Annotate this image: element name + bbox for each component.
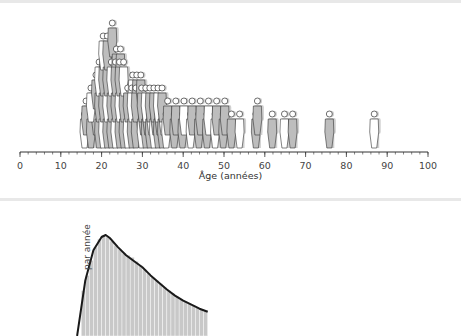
person-figure (370, 111, 381, 148)
histogram-bar (110, 241, 114, 336)
histogram-bar (138, 265, 142, 336)
histogram-bar (187, 304, 191, 336)
histogram-bar (134, 261, 138, 336)
person-figure (325, 111, 336, 148)
histogram-bar (191, 306, 195, 336)
histogram-bar (98, 239, 102, 336)
x-axis-label: Âge (années) (0, 170, 461, 181)
x-axis-title: Âge (années) (199, 170, 262, 181)
histogram-bar (85, 275, 89, 336)
histogram-bar (122, 253, 126, 336)
histogram-bar (167, 291, 171, 336)
person-figure (268, 111, 279, 148)
histogram-bar (155, 280, 159, 336)
figures-group (80, 20, 381, 148)
pictograph-chart: 0102030405060708090100 (0, 0, 461, 185)
person-figure (288, 111, 299, 148)
histogram-bar (200, 310, 204, 336)
histogram-bar (179, 300, 183, 336)
histogram-bar (142, 269, 146, 336)
person-figure (253, 98, 264, 135)
y-axis-label: par année (82, 224, 92, 270)
pictograph-panel: 0102030405060708090100 Âge (années) (0, 0, 461, 185)
y-axis-title: par année (82, 224, 92, 270)
histogram-bar (89, 260, 93, 336)
histogram-bar (106, 237, 110, 336)
histogram-bar (171, 294, 175, 336)
histogram-bar (151, 277, 155, 336)
histogram-bar (183, 302, 187, 336)
histogram-bar (130, 257, 134, 336)
histogram-bar (163, 288, 167, 336)
histogram-panel: par année (0, 200, 461, 336)
histogram-bar (159, 283, 163, 336)
histogram-bar (204, 311, 208, 336)
histogram-bar (102, 235, 106, 336)
histogram-bar (146, 273, 150, 336)
histogram-bar (118, 249, 122, 336)
histogram-bar (114, 245, 118, 336)
histogram-bar (195, 308, 199, 336)
person-figure (235, 111, 246, 148)
histogram-chart (0, 200, 461, 336)
histogram-bar (126, 255, 130, 336)
histogram-bar (175, 297, 179, 336)
histogram-bar (93, 247, 97, 336)
